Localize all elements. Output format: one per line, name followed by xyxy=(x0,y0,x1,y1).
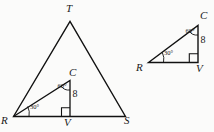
geometry-drawing xyxy=(0,0,214,132)
vertex-label-T: T xyxy=(66,3,72,14)
length-label-CV-large: 8 xyxy=(73,89,78,99)
angle-label-C-small: 60° xyxy=(186,28,195,35)
length-label-CV-small: 8 xyxy=(201,35,206,45)
vertex-label-C-small: C xyxy=(200,10,207,21)
angle-label-R-large: 30° xyxy=(30,104,39,111)
vertex-label-V-large: V xyxy=(64,117,71,128)
vertex-label-V-small: V xyxy=(196,63,203,74)
geometry-figure-canvas: T R S C V 30° 60° 8 C R V 30° 60° 8 xyxy=(0,0,214,132)
vertex-label-C-large: C xyxy=(69,67,76,78)
angle-label-C-large: 60° xyxy=(58,83,67,90)
angle-label-R-small: 30° xyxy=(164,50,173,57)
vertex-label-R-small: R xyxy=(136,62,143,73)
vertex-label-R-large: R xyxy=(1,115,8,126)
vertex-label-S: S xyxy=(124,115,130,126)
